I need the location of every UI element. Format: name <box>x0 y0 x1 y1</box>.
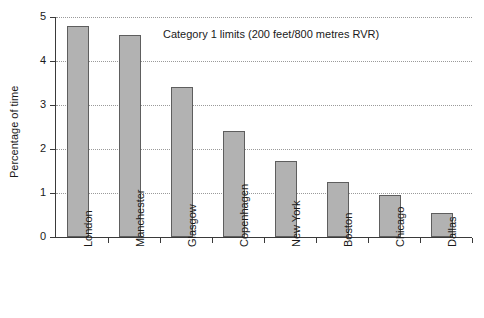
x-axis-tick <box>160 238 161 243</box>
x-axis-tick-label: Chicago <box>395 207 406 247</box>
x-axis-tick-label: Glasgow <box>187 204 198 247</box>
y-axis-tick-label: 4 <box>0 55 46 66</box>
y-axis-tick-label: 2 <box>0 143 46 154</box>
x-axis-tick <box>472 238 473 243</box>
x-axis-tick <box>368 238 369 243</box>
bar <box>67 26 89 237</box>
y-axis-tick-label: 0 <box>0 231 46 242</box>
x-axis-tick-label: Manchester <box>135 190 146 247</box>
y-axis-tick-label: 1 <box>0 187 46 198</box>
x-axis-tick <box>316 238 317 243</box>
y-axis-tick-label: 3 <box>0 99 46 110</box>
x-axis-tick <box>420 238 421 243</box>
bar-chart: Category 1 limits (200 feet/800 metres R… <box>0 0 484 318</box>
x-axis-tick <box>264 238 265 243</box>
x-axis-tick-label: London <box>83 210 94 247</box>
x-axis-tick-label: Dallas <box>447 216 458 247</box>
x-axis-tick-label: Copenhagen <box>239 184 250 247</box>
y-axis-tick-label: 5 <box>0 11 46 22</box>
x-axis-tick <box>108 238 109 243</box>
x-axis-tick <box>212 238 213 243</box>
plot-area <box>56 17 472 237</box>
x-axis-tick-label: Boston <box>343 213 354 247</box>
x-axis-tick-label: New York <box>291 201 302 247</box>
